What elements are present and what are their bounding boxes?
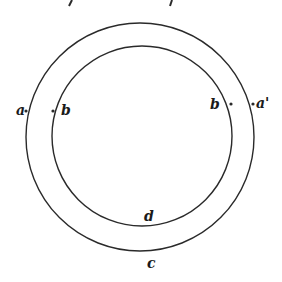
label-b: b [61, 103, 71, 117]
cropped-text-fragment [170, 0, 172, 6]
point-b-prime-marker [229, 102, 232, 105]
annulus-diagram [0, 0, 282, 282]
label-d: d [144, 209, 154, 223]
cropped-text-fragment [69, 0, 72, 6]
label-a-prime: a' [256, 96, 269, 110]
outer-circle [26, 23, 254, 251]
point-a-prime-marker [251, 102, 254, 105]
label-c: c [147, 256, 156, 270]
label-b-prime: b [210, 97, 220, 111]
point-b-marker [51, 109, 54, 112]
inner-circle [52, 46, 232, 226]
label-a: a [16, 103, 25, 117]
